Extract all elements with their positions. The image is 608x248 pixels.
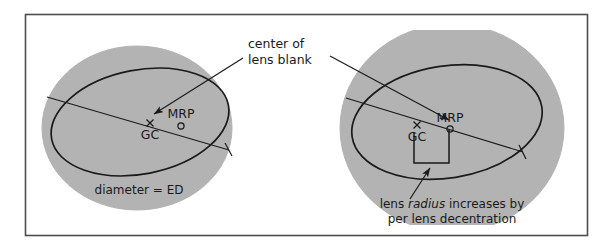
gc-label-left: GC <box>141 127 160 142</box>
caption-pre: lens <box>380 197 408 211</box>
caption-emphasis: radius <box>408 197 445 211</box>
diameter-caption-left: diameter = ED <box>95 183 184 197</box>
callout-line-2: lens blank <box>248 52 313 67</box>
mrp-label-right: MRP <box>436 110 463 125</box>
lens-blank-diagram: GC MRP diameter = ED GC MRP <box>0 0 608 248</box>
mrp-label-left: MRP <box>167 106 194 121</box>
decentration-caption-line1: lens radius increases by <box>380 197 525 211</box>
figure-canvas: GC MRP diameter = ED GC MRP <box>0 0 608 248</box>
callout-line-1: center of <box>248 36 305 51</box>
caption-post: increases by <box>445 197 524 211</box>
gc-label-right: GC <box>408 129 427 144</box>
decentration-caption-line2: per lens decentration <box>388 212 517 226</box>
panel-right: GC MRP lens radius increases by per lens… <box>340 24 564 232</box>
